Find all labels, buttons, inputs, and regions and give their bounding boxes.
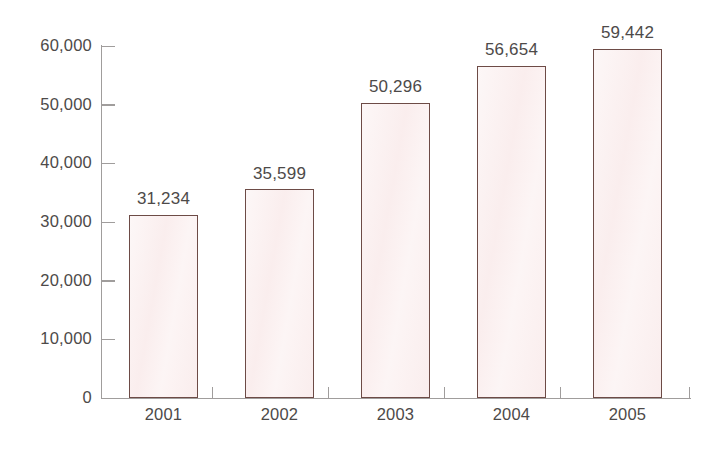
y-axis-tick-30000: [102, 222, 115, 223]
x-axis-tick-2: [444, 387, 445, 398]
bar-2005[interactable]: [593, 49, 662, 398]
bar-2002[interactable]: [245, 189, 314, 398]
x-axis-label-2002: 2002: [235, 405, 325, 424]
x-axis-tick-4: [689, 387, 690, 398]
x-axis-label-2005: 2005: [583, 405, 673, 424]
x-axis-label-2004: 2004: [467, 405, 557, 424]
bar-sheen: [478, 67, 545, 397]
bar-2001[interactable]: [129, 215, 198, 398]
bar-sheen: [246, 190, 313, 397]
x-axis-label-2001: 2001: [119, 405, 209, 424]
y-axis-label-0: 0: [20, 388, 92, 407]
bar-value-label-2005: 59,442: [568, 23, 688, 43]
bar-sheen: [594, 50, 661, 397]
bar-2003[interactable]: [361, 103, 430, 398]
y-axis-label-40000: 40,000: [20, 153, 92, 172]
x-axis-label-2003: 2003: [351, 405, 441, 424]
y-axis-tick-20000: [102, 280, 115, 281]
y-axis-label-50000: 50,000: [20, 95, 92, 114]
y-axis-tick-50000: [102, 104, 115, 105]
bar-value-label-2001: 31,234: [104, 189, 224, 209]
y-axis-label-30000: 30,000: [20, 212, 92, 231]
x-axis-tick-0: [212, 387, 213, 398]
y-axis-label-10000: 10,000: [20, 329, 92, 348]
x-axis-tick-3: [560, 387, 561, 398]
y-axis-tick-10000: [102, 339, 115, 340]
bar-2004[interactable]: [477, 66, 546, 398]
bar-value-label-2002: 35,599: [220, 164, 340, 184]
bar-value-label-2003: 50,296: [336, 77, 456, 97]
y-axis-label-60000: 60,000: [20, 36, 92, 55]
x-axis-line: [101, 398, 691, 399]
y-axis-tick-40000: [102, 163, 115, 164]
bar-chart: 60,000 50,000 40,000 30,000 20,000 10,00…: [0, 0, 722, 453]
bar-sheen: [130, 216, 197, 397]
y-axis-label-20000: 20,000: [20, 271, 92, 290]
bar-sheen: [362, 104, 429, 397]
y-axis-tick-60000: [102, 46, 115, 47]
bar-value-label-2004: 56,654: [452, 40, 572, 60]
x-axis-tick-1: [328, 387, 329, 398]
